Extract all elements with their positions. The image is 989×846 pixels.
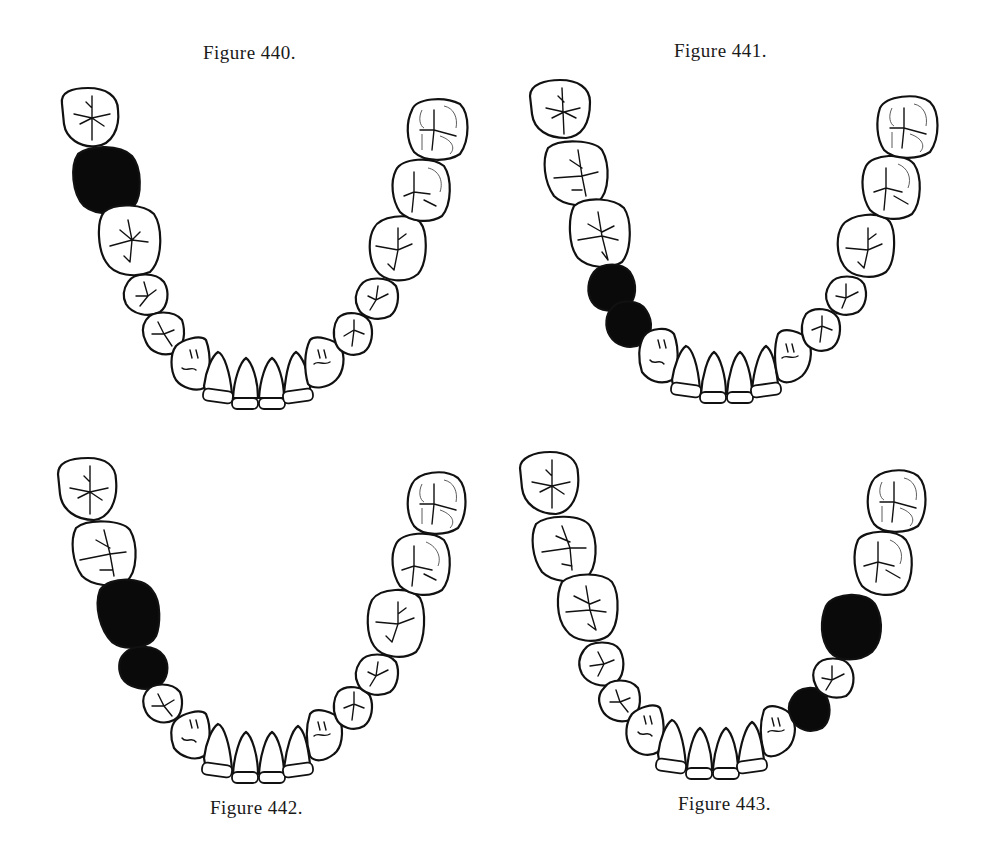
figure-440-dental-arch xyxy=(0,0,495,420)
right-first-molar-missing xyxy=(822,595,881,660)
left-third-molar xyxy=(530,80,590,138)
right-central-incisor xyxy=(727,352,753,403)
left-central-incisor xyxy=(700,352,726,403)
left-third-molar xyxy=(62,88,119,146)
dental-arch-diagram xyxy=(490,0,989,420)
left-first-molar xyxy=(99,205,160,275)
left-first-molar-missing xyxy=(98,580,160,648)
dental-arch-diagram xyxy=(0,0,495,420)
right-first-molar xyxy=(368,590,424,657)
left-second-premolar xyxy=(124,275,168,315)
figure-442-dental-arch xyxy=(0,430,495,800)
right-second-molar xyxy=(393,160,450,221)
left-central-incisor xyxy=(686,728,712,779)
left-third-molar xyxy=(520,452,578,514)
left-third-molar xyxy=(58,458,116,520)
right-third-molar xyxy=(868,470,926,531)
right-first-molar xyxy=(370,216,426,280)
dental-arch-diagram xyxy=(0,430,495,800)
right-second-premolar xyxy=(356,655,398,695)
right-third-molar xyxy=(408,99,468,160)
figure-441-dental-arch xyxy=(490,0,989,420)
right-second-molar xyxy=(393,534,450,595)
left-first-molar xyxy=(570,199,630,267)
left-second-premolar xyxy=(579,643,623,686)
right-second-molar xyxy=(863,156,920,219)
right-central-incisor xyxy=(713,728,739,779)
right-second-premolar xyxy=(826,277,866,315)
left-central-incisor xyxy=(232,732,258,783)
left-second-molar xyxy=(545,141,608,205)
right-central-incisor xyxy=(259,732,285,783)
right-first-premolar xyxy=(334,313,372,355)
left-second-molar xyxy=(533,517,596,582)
figure-442-caption: Figure 442. xyxy=(210,797,303,819)
right-second-premolar xyxy=(813,659,853,698)
left-second-molar-missing xyxy=(73,147,140,213)
left-first-premolar xyxy=(143,685,182,723)
left-first-molar xyxy=(558,575,618,641)
right-third-molar xyxy=(877,96,937,157)
right-second-molar xyxy=(855,532,912,595)
right-central-incisor xyxy=(259,358,285,409)
left-central-incisor xyxy=(232,358,258,409)
right-first-premolar xyxy=(802,309,840,351)
dental-arch-diagram xyxy=(490,430,989,800)
right-second-premolar xyxy=(356,279,398,319)
left-canine xyxy=(171,712,209,759)
left-second-premolar-missing xyxy=(119,647,167,689)
right-third-molar xyxy=(408,472,466,533)
left-second-molar xyxy=(73,521,136,585)
right-first-molar xyxy=(838,215,894,277)
figure-443-dental-arch xyxy=(490,430,989,800)
